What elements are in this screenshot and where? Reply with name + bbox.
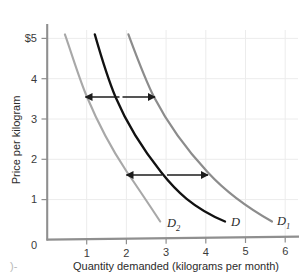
grid-vertical [87, 30, 286, 240]
demand-curve-d1 [128, 34, 272, 221]
x-tick-label-4: 4 [203, 246, 209, 258]
axis-lines [47, 24, 300, 241]
y-axis-title: Price per kilogram [10, 96, 22, 185]
x-tick-label-3: 3 [163, 246, 169, 258]
demand-shift-chart: $5 4 3 2 1 0 1 2 3 4 5 6 D 2 D D 1 Price… [0, 0, 306, 274]
y-tick-label-1: 1 [31, 193, 37, 205]
y-tick-label-5: $5 [25, 32, 37, 44]
x-tick-label-5: 5 [242, 245, 248, 257]
y-tick-label-0: 0 [31, 239, 37, 251]
curve-label-d1: D 1 [276, 214, 290, 231]
curve-label-d1-letter: D [276, 214, 286, 228]
x-tick-label-1: 1 [84, 247, 90, 259]
curve-label-d2-letter: D [166, 216, 176, 230]
x-tick-label-6: 6 [282, 245, 288, 257]
curve-label-d2: D 2 [166, 216, 181, 233]
x-axis-title: Quantity demanded (kilograms per month) [73, 260, 279, 272]
y-tick-label-4: 4 [31, 73, 37, 85]
chart-figure: $5 4 3 2 1 0 1 2 3 4 5 6 D 2 D D 1 Price… [0, 0, 306, 274]
curve-label-d-letter: D [230, 215, 240, 229]
curve-label-d2-subscript: 2 [176, 223, 181, 233]
page-edge-artifact: )- [10, 260, 18, 272]
demand-curve-d2 [65, 34, 160, 221]
x-tick-label-2: 2 [123, 247, 129, 259]
x-axis-line [47, 237, 300, 240]
y-tick-label-3: 3 [31, 113, 37, 125]
curve-label-d: D [230, 215, 240, 229]
curve-label-d1-subscript: 1 [286, 221, 290, 231]
y-tick-label-2: 2 [31, 153, 37, 165]
